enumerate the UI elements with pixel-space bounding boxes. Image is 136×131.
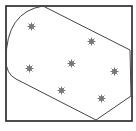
point-marker bbox=[25, 64, 34, 73]
point-marker bbox=[27, 22, 36, 31]
asterisk-star-icon bbox=[97, 94, 106, 103]
asterisk-star-icon bbox=[27, 22, 36, 31]
diagram-canvas bbox=[0, 0, 136, 131]
point-marker bbox=[67, 59, 76, 68]
asterisk-star-icon bbox=[67, 59, 76, 68]
asterisk-star-icon bbox=[87, 37, 96, 46]
asterisk-star-icon bbox=[25, 64, 34, 73]
asterisk-star-icon bbox=[110, 67, 119, 76]
point-marker bbox=[97, 94, 106, 103]
point-marker bbox=[110, 67, 119, 76]
point-marker bbox=[57, 86, 66, 95]
point-marker bbox=[87, 37, 96, 46]
asterisk-star-icon bbox=[57, 86, 66, 95]
